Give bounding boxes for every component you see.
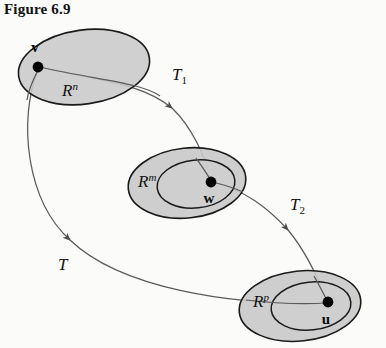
- space-superscript-domain: n: [72, 80, 78, 92]
- map-label-T: T: [58, 255, 69, 274]
- map-label-T2: T2: [290, 195, 305, 216]
- vector-dot-w: [206, 177, 217, 188]
- space-superscript-codomain: p: [262, 291, 269, 303]
- map-subscript-T1: 1: [181, 74, 187, 86]
- mapping-diagram: Rn v Rm w Rp u T1 T2 T: [0, 0, 386, 348]
- map-label-T1: T1: [172, 65, 187, 86]
- vector-label-u: u: [322, 311, 330, 327]
- space-superscript-intermediate: m: [148, 171, 156, 183]
- vector-dot-u: [323, 297, 334, 308]
- vector-label-w: w: [204, 190, 215, 206]
- vector-dot-v: [33, 62, 44, 73]
- map-subscript-T2: 2: [299, 204, 305, 216]
- figure-container: Figure 6.9 Rn v: [0, 0, 386, 348]
- vector-label-v: v: [31, 39, 39, 55]
